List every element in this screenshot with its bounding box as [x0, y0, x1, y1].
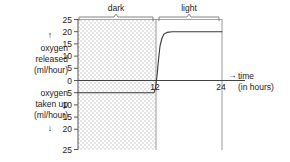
x-axis-label-line2: (in hours) [238, 82, 274, 92]
y-tick-label-25: 25 [63, 15, 73, 25]
dark-region-shading [78, 19, 156, 150]
x-tick-label-24: 24 [216, 82, 226, 92]
y-tick-label-minus5: 5 [67, 88, 72, 98]
upper-axis-label-line2: released [35, 54, 68, 64]
upper-axis-label-line1: oxygen [41, 43, 69, 53]
lower-axis-label-line1: oxygen [41, 88, 69, 98]
down-arrow-icon: ↓ [48, 123, 53, 133]
up-arrow-icon: ↑ [48, 30, 53, 40]
dark-region-label: dark [108, 3, 125, 13]
chart-svg: 25 20 15 10 5 0 5 10 15 20 25 12 24 dark… [0, 0, 290, 162]
light-brace [159, 14, 219, 21]
y-tick-label-minus20: 20 [63, 124, 73, 134]
upper-axis-label-line3: (ml/hour) [34, 65, 68, 75]
y-tick-label-0: 0 [67, 76, 72, 86]
oxygen-exchange-chart: 25 20 15 10 5 0 5 10 15 20 25 12 24 dark… [0, 0, 290, 162]
y-tick-label-5: 5 [67, 63, 72, 73]
y-tick-label-minus25: 25 [63, 145, 73, 155]
y-tick-label-20: 20 [63, 27, 73, 37]
light-region-label: light [181, 3, 197, 13]
x-axis-label-line1: time [238, 71, 254, 81]
lower-axis-label-line2: taken up [35, 99, 68, 109]
lower-axis-label-line3: (ml/hour) [34, 110, 68, 120]
x-axis-arrow-icon: → [228, 70, 237, 80]
